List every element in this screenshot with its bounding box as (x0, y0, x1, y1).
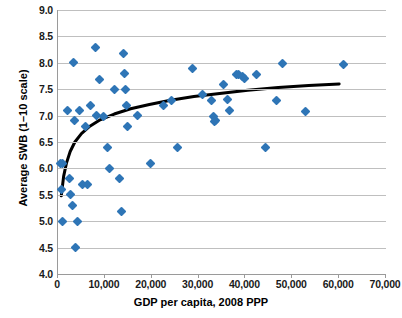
x-tick-label: 20,000 (135, 278, 166, 290)
trendline-path (61, 84, 339, 196)
data-point (197, 90, 207, 100)
data-point (187, 64, 197, 74)
data-point (116, 206, 126, 216)
y-gridline (58, 248, 386, 249)
data-point (207, 95, 217, 105)
data-point (85, 100, 95, 110)
x-tick-label: 40,000 (229, 278, 260, 290)
data-point (80, 121, 90, 131)
data-point (166, 95, 176, 105)
data-point (75, 105, 85, 115)
x-tick-label: 50,000 (276, 278, 307, 290)
data-point (69, 58, 79, 68)
data-point (118, 48, 128, 58)
y-tick-label: 4.5 (19, 242, 53, 254)
y-tick-label: 7.0 (19, 110, 53, 122)
data-point (73, 216, 83, 226)
data-point (102, 142, 112, 152)
y-tick-label: 4.0 (19, 268, 53, 280)
y-gridline (58, 10, 386, 11)
y-gridline (58, 36, 386, 37)
data-point (146, 159, 156, 169)
data-point (119, 69, 129, 79)
y-tick-label: 8.5 (19, 30, 53, 42)
data-point (123, 121, 133, 131)
y-gridline (58, 63, 386, 64)
scatter-chart: Average SWB (1–10 scale) GDP per capita,… (0, 0, 402, 318)
data-point (120, 85, 130, 95)
x-tick-label: 70,000 (370, 278, 401, 290)
y-tick-label: 5.0 (19, 215, 53, 227)
x-tick-label: 60,000 (323, 278, 354, 290)
data-point (225, 106, 235, 116)
data-point (69, 116, 79, 126)
data-point (91, 43, 101, 53)
data-point (223, 95, 233, 105)
data-point (63, 105, 73, 115)
data-point (94, 74, 104, 84)
data-point (271, 95, 281, 105)
y-tick-label: 5.5 (19, 189, 53, 201)
data-point (104, 163, 114, 173)
y-gridline (58, 274, 386, 275)
y-tick-label: 6.5 (19, 136, 53, 148)
y-tick-label: 6.0 (19, 162, 53, 174)
data-point (114, 174, 124, 184)
data-point (65, 190, 75, 200)
data-point (240, 74, 250, 84)
data-point (252, 69, 262, 79)
data-point (56, 185, 66, 195)
data-point (98, 111, 108, 121)
data-point (71, 243, 81, 253)
data-point (67, 200, 77, 210)
data-point (277, 59, 287, 69)
data-point (110, 85, 120, 95)
y-gridline (58, 195, 386, 196)
y-gridline (58, 89, 386, 90)
data-point (121, 100, 131, 110)
data-point (173, 143, 183, 153)
x-tick-label: 10,000 (88, 278, 119, 290)
data-point (338, 59, 348, 69)
y-tick-label: 7.5 (19, 83, 53, 95)
plot-area (57, 10, 385, 274)
y-tick-label: 9.0 (19, 4, 53, 16)
data-point (261, 143, 271, 153)
y-gridline (58, 221, 386, 222)
x-axis-title: GDP per capita, 2008 PPP (0, 296, 402, 308)
data-point (64, 174, 74, 184)
x-tick-label: 0 (54, 278, 60, 290)
x-tick-label: 30,000 (182, 278, 213, 290)
data-point (158, 101, 168, 111)
data-point (57, 216, 67, 226)
y-tick-label: 8.0 (19, 57, 53, 69)
data-point (132, 111, 142, 121)
